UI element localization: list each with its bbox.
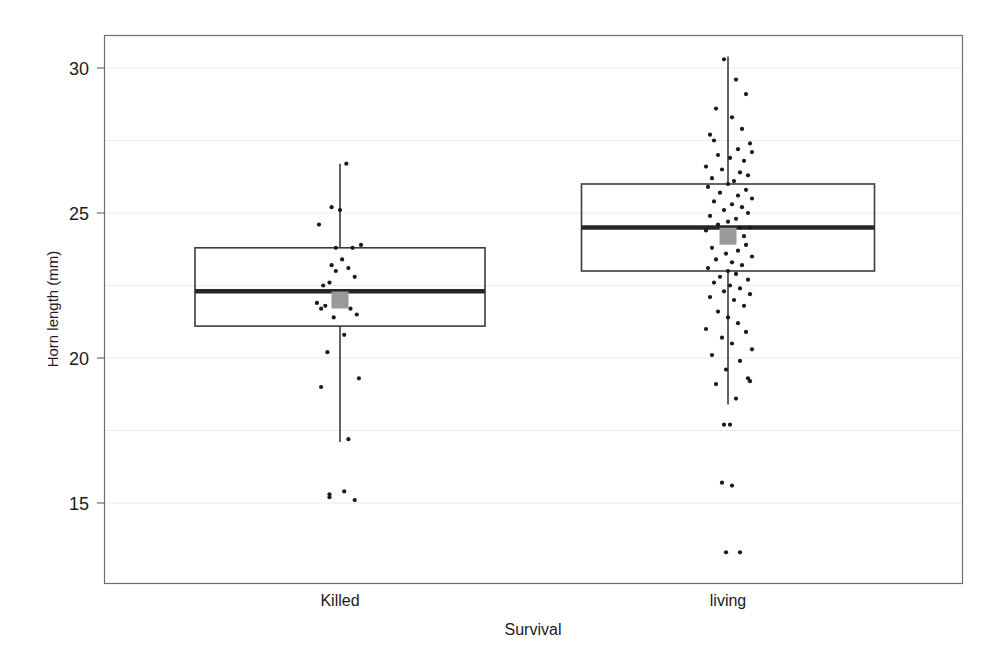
data-point — [712, 281, 716, 285]
data-point — [330, 263, 334, 267]
data-point — [346, 437, 350, 441]
data-point — [720, 336, 724, 340]
data-point — [728, 283, 732, 287]
data-point — [708, 214, 712, 218]
data-point — [712, 138, 716, 142]
data-point — [730, 202, 734, 206]
data-point — [720, 481, 724, 485]
data-point — [742, 159, 746, 163]
data-point — [750, 347, 754, 351]
data-point — [710, 246, 714, 250]
data-point — [353, 498, 357, 502]
data-point — [334, 246, 338, 250]
data-point — [338, 208, 342, 212]
data-point — [706, 266, 710, 270]
data-point — [748, 225, 752, 229]
figure-background — [0, 0, 999, 665]
data-point — [710, 176, 714, 180]
data-point — [734, 78, 738, 82]
data-point — [746, 173, 750, 177]
data-point — [738, 550, 742, 554]
data-point — [724, 368, 728, 372]
data-point — [738, 225, 742, 229]
data-point — [718, 191, 722, 195]
data-point — [736, 249, 740, 253]
data-point — [714, 107, 718, 111]
mean-marker-living — [720, 228, 737, 245]
data-point — [750, 150, 754, 154]
data-point — [327, 495, 331, 499]
y-axis-title: Horn length (mm) — [44, 251, 61, 368]
data-point — [732, 179, 736, 183]
data-point — [714, 382, 718, 386]
data-point — [740, 127, 744, 131]
data-point — [319, 385, 323, 389]
x-tick-label-living: living — [710, 592, 746, 609]
data-point — [742, 304, 746, 308]
data-point — [317, 223, 321, 227]
data-point — [736, 194, 740, 198]
data-point — [710, 353, 714, 357]
y-tick-label: 15 — [69, 494, 89, 514]
mean-marker-killed — [332, 292, 349, 309]
data-point — [706, 185, 710, 189]
data-point — [720, 167, 724, 171]
data-point — [722, 423, 726, 427]
data-point — [728, 156, 732, 160]
data-point — [748, 379, 752, 383]
data-point — [730, 341, 734, 345]
x-tick-label-killed: Killed — [320, 592, 359, 609]
data-point — [738, 170, 742, 174]
data-point — [726, 220, 730, 224]
data-point — [342, 489, 346, 493]
data-point — [716, 153, 720, 157]
data-point — [348, 307, 352, 311]
data-point — [716, 310, 720, 314]
y-tick-label: 30 — [69, 59, 89, 79]
data-point — [748, 141, 752, 145]
data-point — [716, 223, 720, 227]
data-point — [315, 301, 319, 305]
data-point — [746, 278, 750, 282]
data-point — [750, 254, 754, 258]
data-point — [340, 257, 344, 261]
data-point — [724, 550, 728, 554]
data-point — [344, 162, 348, 166]
data-point — [708, 295, 712, 299]
data-point — [724, 252, 728, 256]
data-point — [732, 298, 736, 302]
data-point — [355, 312, 359, 316]
data-point — [321, 283, 325, 287]
data-point — [704, 228, 708, 232]
data-point — [357, 376, 361, 380]
data-point — [730, 484, 734, 488]
data-point — [740, 205, 744, 209]
data-point — [351, 246, 355, 250]
data-point — [332, 315, 336, 319]
data-point — [330, 205, 334, 209]
data-point — [359, 243, 363, 247]
x-axis-title: Survival — [505, 621, 562, 638]
data-point — [740, 263, 744, 267]
data-point — [730, 115, 734, 119]
data-point — [744, 92, 748, 96]
data-point — [718, 275, 722, 279]
data-point — [726, 315, 730, 319]
boxplot-figure: 30252015 Killedliving Horn length (mm) S… — [0, 0, 999, 665]
data-point — [738, 286, 742, 290]
data-point — [726, 182, 730, 186]
y-tick-label: 25 — [69, 204, 89, 224]
data-point — [722, 289, 726, 293]
data-point — [728, 423, 732, 427]
data-point — [744, 243, 748, 247]
data-point — [353, 275, 357, 279]
data-point — [734, 217, 738, 221]
data-point — [714, 257, 718, 261]
data-point — [342, 333, 346, 337]
data-point — [750, 196, 754, 200]
data-point — [327, 281, 331, 285]
data-point — [704, 327, 708, 331]
y-tick-label: 20 — [69, 349, 89, 369]
data-point — [736, 147, 740, 151]
data-point — [748, 292, 752, 296]
